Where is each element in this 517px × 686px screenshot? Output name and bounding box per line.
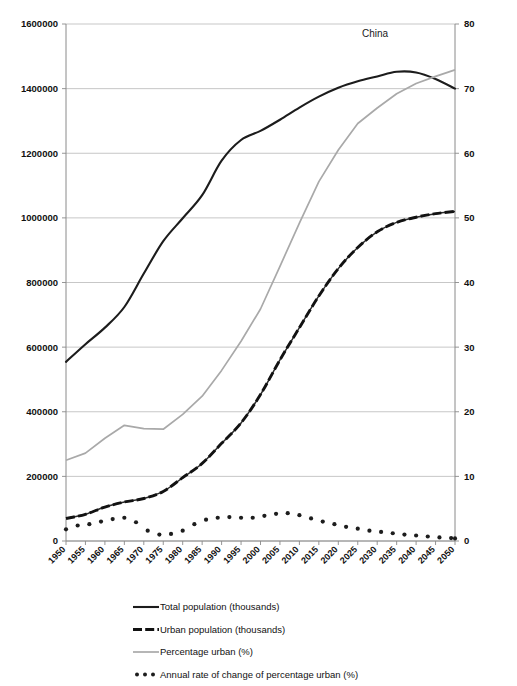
data-series-group — [64, 70, 457, 541]
data-point — [274, 512, 278, 516]
x-axis-tick-label: 2035 — [377, 544, 398, 565]
tickmarks-group — [62, 24, 459, 545]
data-point — [76, 523, 80, 527]
series-annual-rate-of-change — [64, 511, 457, 540]
x-axis-tick-label: 1985 — [182, 544, 203, 565]
x-axis-tick-label: 2045 — [416, 544, 437, 565]
x-axis-tick-label: 2040 — [396, 544, 417, 565]
legend-item-label: Total population (thousands) — [160, 601, 279, 612]
y2-axis-labels: 01020304050607080 — [464, 18, 475, 546]
x-axis-tick-label: 2000 — [241, 544, 262, 565]
data-point — [64, 527, 68, 531]
x-axis-labels: 1950195519601965197019751980198519901995… — [46, 544, 456, 565]
chart-canvas: 0200000400000600000800000100000012000001… — [0, 0, 517, 686]
y-axis-tick-label: 1400000 — [21, 83, 58, 94]
legend-item-label: Annual rate of change of percentage urba… — [160, 669, 358, 680]
data-point — [414, 533, 418, 537]
x-axis-tick-label: 2025 — [338, 544, 359, 565]
series-total-population — [66, 71, 455, 361]
y-axis-tick-label: 600000 — [26, 342, 58, 353]
legend-item: Urban population (thousands) — [133, 624, 285, 635]
x-axis-tick-label: 2020 — [318, 544, 339, 565]
data-point — [99, 520, 103, 524]
data-point — [181, 529, 185, 533]
y-axis-tick-label: 800000 — [26, 277, 58, 288]
x-axis-tick-label: 1950 — [46, 544, 67, 565]
data-point — [391, 531, 395, 535]
data-point — [309, 516, 313, 520]
chart-legend: Total population (thousands)Urban popula… — [133, 601, 358, 680]
x-axis-tick-label: 2030 — [357, 544, 378, 565]
data-point — [111, 517, 115, 521]
legend-item: Percentage urban (%) — [133, 646, 253, 657]
y2-axis-tick-label: 0 — [464, 535, 469, 546]
y-axis-tick-label: 1000000 — [21, 212, 58, 223]
legend-dot — [135, 673, 139, 677]
x-axis-tick-label: 2010 — [280, 544, 301, 565]
series-percentage-urban — [66, 70, 455, 460]
y2-axis-tick-label: 50 — [464, 212, 475, 223]
x-axis-tick-label: 1995 — [221, 544, 242, 565]
data-point — [379, 530, 383, 534]
data-point — [157, 532, 161, 536]
data-point — [216, 516, 220, 520]
legend-item: Total population (thousands) — [133, 601, 279, 612]
series-urban-population — [66, 211, 455, 518]
x-axis-tick-label: 1955 — [66, 544, 87, 565]
y-axis-tick-label: 400000 — [26, 406, 58, 417]
legend-dot — [143, 673, 147, 677]
x-axis-tick-label: 2005 — [260, 544, 281, 565]
y-axis-labels: 0200000400000600000800000100000012000001… — [21, 18, 58, 546]
y2-axis-tick-label: 20 — [464, 406, 475, 417]
legend-swatch-annual-rate — [135, 673, 155, 677]
data-point — [344, 525, 348, 529]
data-point — [453, 536, 457, 540]
data-point — [87, 522, 91, 526]
y2-axis-tick-label: 70 — [464, 83, 475, 94]
legend-item-label: Urban population (thousands) — [160, 624, 285, 635]
data-point — [192, 522, 196, 526]
data-point — [204, 518, 208, 522]
x-axis-tick-label: 2050 — [435, 544, 456, 565]
x-axis-tick-label: 1975 — [143, 544, 164, 565]
y-axis-tick-label: 1600000 — [21, 18, 58, 29]
data-point — [449, 536, 453, 540]
y-axis-tick-label: 1200000 — [21, 148, 58, 159]
y2-axis-tick-label: 10 — [464, 471, 475, 482]
y2-axis-tick-label: 80 — [464, 18, 475, 29]
x-axis-tick-label: 2015 — [299, 544, 320, 565]
x-axis-tick-label: 1970 — [124, 544, 145, 565]
data-point — [239, 516, 243, 520]
x-axis-tick-label: 1960 — [85, 544, 106, 565]
data-point — [122, 516, 126, 520]
x-axis-tick-label: 1990 — [202, 544, 223, 565]
data-point — [297, 513, 301, 517]
legend-item-label: Percentage urban (%) — [160, 646, 253, 657]
data-point — [227, 515, 231, 519]
y-axis-tick-label: 0 — [53, 535, 58, 546]
data-point — [426, 534, 430, 538]
y2-axis-tick-label: 40 — [464, 277, 475, 288]
x-axis-tick-label: 1965 — [105, 544, 126, 565]
data-point — [402, 532, 406, 536]
x-axis-tick-label: 1980 — [163, 544, 184, 565]
legend-item: Annual rate of change of percentage urba… — [135, 669, 358, 680]
data-point — [332, 522, 336, 526]
data-point — [437, 535, 441, 539]
data-point — [367, 529, 371, 533]
data-point — [286, 511, 290, 515]
data-point — [169, 532, 173, 536]
data-point — [356, 527, 360, 531]
data-point — [146, 529, 150, 533]
y-axis-tick-label: 200000 — [26, 471, 58, 482]
y2-axis-tick-label: 60 — [464, 148, 475, 159]
chart-figure: 0200000400000600000800000100000012000001… — [0, 0, 517, 686]
chart-title: China — [362, 28, 389, 39]
data-point — [134, 520, 138, 524]
gridlines-group — [66, 24, 455, 541]
data-point — [251, 516, 255, 520]
y2-axis-tick-label: 30 — [464, 342, 475, 353]
data-point — [321, 520, 325, 524]
data-point — [262, 514, 266, 518]
series-urban-population-underlay — [66, 211, 455, 518]
